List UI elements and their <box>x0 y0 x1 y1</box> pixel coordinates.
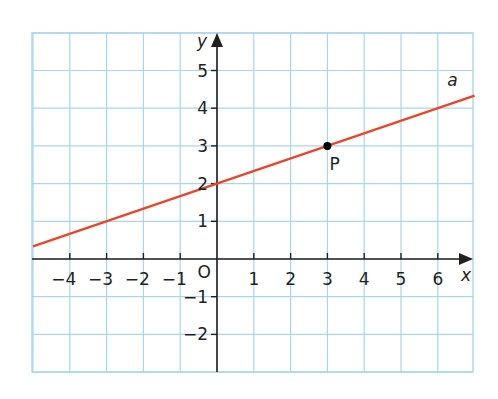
axes <box>32 33 473 372</box>
x-tick-label: −3 <box>88 269 113 289</box>
x-tick-label: −4 <box>51 269 76 289</box>
x-tick-label: 1 <box>248 269 259 289</box>
y-tick-label: 5 <box>197 61 208 81</box>
x-axis-arrow-icon <box>459 253 473 265</box>
y-tick-label: −2 <box>183 324 208 344</box>
x-tick-label: 2 <box>285 269 296 289</box>
y-tick-label: 2 <box>197 174 208 194</box>
y-tick-label: 4 <box>197 98 208 118</box>
grid-border <box>32 33 473 372</box>
origin-label: O <box>198 262 211 282</box>
y-axis-label: y <box>196 31 208 51</box>
y-tick-label: −1 <box>183 287 208 307</box>
grid-lines <box>32 33 473 372</box>
y-tick-label: 3 <box>197 136 208 156</box>
coordinate-plot: −4−3−2−1123456−2−112345OxyaP <box>0 0 498 399</box>
x-tick-label: 6 <box>432 269 443 289</box>
x-tick-label: 4 <box>359 269 370 289</box>
y-axis-arrow-icon <box>211 33 223 47</box>
x-tick-label: −2 <box>125 269 150 289</box>
x-tick-label: 3 <box>322 269 333 289</box>
line-label-a: a <box>447 70 457 90</box>
tick-labels: −4−3−2−1123456−2−112345OxyaP <box>51 31 472 344</box>
x-axis-label: x <box>460 265 472 285</box>
point-P <box>323 142 331 150</box>
point-label-P: P <box>329 154 339 174</box>
x-tick-label: 5 <box>396 269 407 289</box>
y-tick-label: 1 <box>197 211 208 231</box>
